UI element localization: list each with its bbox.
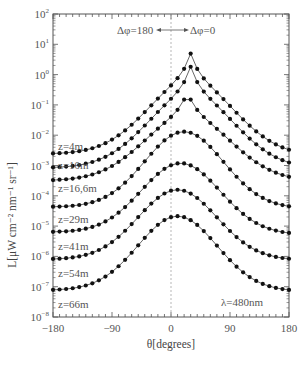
data-point [71, 255, 75, 259]
data-point [64, 204, 68, 208]
series-z=66m [51, 214, 291, 292]
data-point [116, 186, 120, 190]
data-point [136, 243, 140, 247]
data-point [136, 116, 140, 120]
y-tick-label: 101 [35, 37, 50, 50]
data-point [228, 139, 232, 143]
data-point [123, 229, 127, 233]
data-point [189, 218, 193, 222]
data-point [234, 206, 238, 210]
data-point [228, 200, 232, 204]
data-point [228, 167, 232, 171]
data-point [248, 187, 252, 191]
y-tick-label: 100 [35, 68, 50, 81]
data-point [156, 196, 160, 200]
data-point [156, 223, 160, 227]
data-point [123, 205, 127, 209]
data-point [90, 200, 94, 204]
data-point [215, 127, 219, 131]
data-point [261, 224, 265, 228]
data-point [130, 222, 134, 226]
data-point [182, 80, 186, 84]
data-point [267, 199, 271, 203]
x-axis-label: θ[degrees] [147, 338, 195, 351]
data-point [156, 110, 160, 114]
data-point [149, 132, 153, 136]
data-point [208, 97, 212, 101]
data-point [267, 284, 271, 288]
y-axis-label: L[μW cm⁻² nm⁻¹ sr⁻¹] [6, 162, 19, 268]
data-point [57, 178, 61, 182]
data-point [182, 189, 186, 193]
data-point [116, 264, 120, 268]
data-point [208, 121, 212, 125]
data-point [241, 150, 245, 154]
data-point [234, 111, 238, 115]
data-point [287, 148, 291, 152]
data-point [123, 181, 127, 185]
y-tick-label: 10−2 [31, 128, 50, 141]
data-point [169, 97, 173, 101]
data-point [195, 167, 199, 171]
data-point [215, 152, 219, 156]
y-tick-label: 10−4 [31, 189, 50, 202]
data-point [274, 286, 278, 290]
data-point [110, 270, 114, 274]
data-point [64, 177, 68, 181]
data-point [110, 240, 114, 244]
data-point [234, 175, 238, 179]
data-point [169, 115, 173, 119]
data-point [103, 274, 107, 278]
y-tick-label: 10−3 [31, 159, 50, 172]
data-point [97, 248, 101, 252]
depth-label: z=16,6m [58, 182, 97, 194]
data-point [267, 152, 271, 156]
data-point [162, 90, 166, 94]
data-point [241, 240, 245, 244]
data-point [169, 163, 173, 167]
data-point [221, 160, 225, 164]
data-point [149, 103, 153, 107]
data-point [97, 158, 101, 162]
data-point [254, 279, 258, 283]
data-point [248, 275, 252, 279]
data-point [280, 145, 284, 149]
data-point [280, 287, 284, 291]
data-point [51, 230, 55, 234]
x-tick-label: −180 [42, 322, 65, 334]
data-point [143, 159, 147, 163]
data-point [103, 167, 107, 171]
data-point [261, 164, 265, 168]
data-point [162, 103, 166, 107]
data-point [254, 248, 258, 252]
data-point [195, 67, 199, 71]
data-point [57, 230, 61, 234]
data-point [280, 256, 284, 260]
data-point [287, 288, 291, 292]
delta-phi-180-label: Δφ=180 [117, 24, 154, 36]
data-point [234, 265, 238, 269]
data-point [261, 251, 265, 255]
data-point [267, 168, 271, 172]
data-point [116, 133, 120, 137]
data-point [149, 229, 153, 233]
data-point [103, 195, 107, 199]
data-point [195, 108, 199, 112]
data-point [241, 117, 245, 121]
data-point [228, 229, 232, 233]
data-point [162, 191, 166, 195]
data-point [254, 192, 258, 196]
data-point [77, 285, 81, 289]
data-point [248, 124, 252, 128]
data-point [261, 282, 265, 286]
data-point [110, 138, 114, 142]
data-point [195, 223, 199, 227]
data-point [136, 167, 140, 171]
data-point [84, 148, 88, 152]
data-point [71, 286, 75, 290]
data-point [287, 257, 291, 261]
data-point [287, 204, 291, 208]
data-point [208, 84, 212, 88]
data-point [71, 229, 75, 233]
data-point [130, 150, 134, 154]
